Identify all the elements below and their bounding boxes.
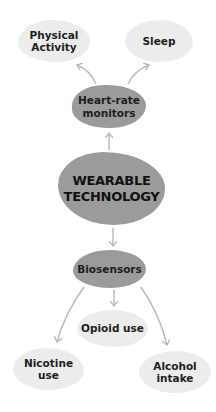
node-label: Alcohol — [153, 360, 196, 373]
node-label: Nicotine — [24, 357, 73, 370]
node-label: Heart-rate — [78, 94, 140, 107]
node-biosensors: Biosensors — [73, 250, 146, 288]
node-label: Biosensors — [77, 263, 142, 276]
arrow-to-physical-activity — [77, 65, 96, 84]
node-heart-rate-monitors: Heart-rate monitors — [72, 85, 146, 128]
center-title: TECHNOLOGY — [64, 189, 160, 205]
node-label: Opioid use — [81, 322, 144, 335]
node-label: Activity — [30, 41, 79, 54]
node-sleep: Sleep — [125, 20, 193, 62]
node-label: use — [24, 369, 73, 382]
node-label: intake — [153, 372, 196, 385]
arrow-to-sleep — [128, 65, 149, 84]
node-physical-activity: Physical Activity — [18, 20, 90, 62]
node-label: monitors — [78, 107, 140, 120]
node-opioid-use: Opioid use — [77, 310, 148, 347]
center-title: WEARABLE — [64, 173, 160, 189]
node-nicotine-use: Nicotine use — [13, 348, 84, 390]
node-label: Physical — [30, 29, 79, 42]
node-label: Sleep — [143, 35, 176, 48]
node-alcohol-intake: Alcohol intake — [139, 351, 211, 393]
